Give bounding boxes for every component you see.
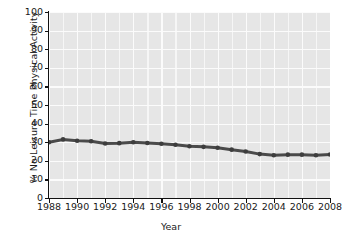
x-tick-mark xyxy=(190,199,191,203)
x-axis-title: Year xyxy=(0,221,342,232)
x-tick-mark xyxy=(302,199,303,203)
x-tick-mark xyxy=(161,199,162,203)
x-tick-label: 2008 xyxy=(309,201,342,212)
chart-figure: % No Leisure Time Physical Activity 1009… xyxy=(0,0,342,239)
x-tick-mark xyxy=(246,199,247,203)
x-tick-mark xyxy=(49,199,50,203)
x-tick-mark xyxy=(133,199,134,203)
x-tick-mark xyxy=(274,199,275,203)
x-axis-ticks: 1988199019921994199619982000200220042006… xyxy=(0,0,342,239)
x-tick-mark xyxy=(218,199,219,203)
x-tick-mark xyxy=(105,199,106,203)
x-tick-mark xyxy=(330,199,331,203)
x-tick-mark xyxy=(77,199,78,203)
